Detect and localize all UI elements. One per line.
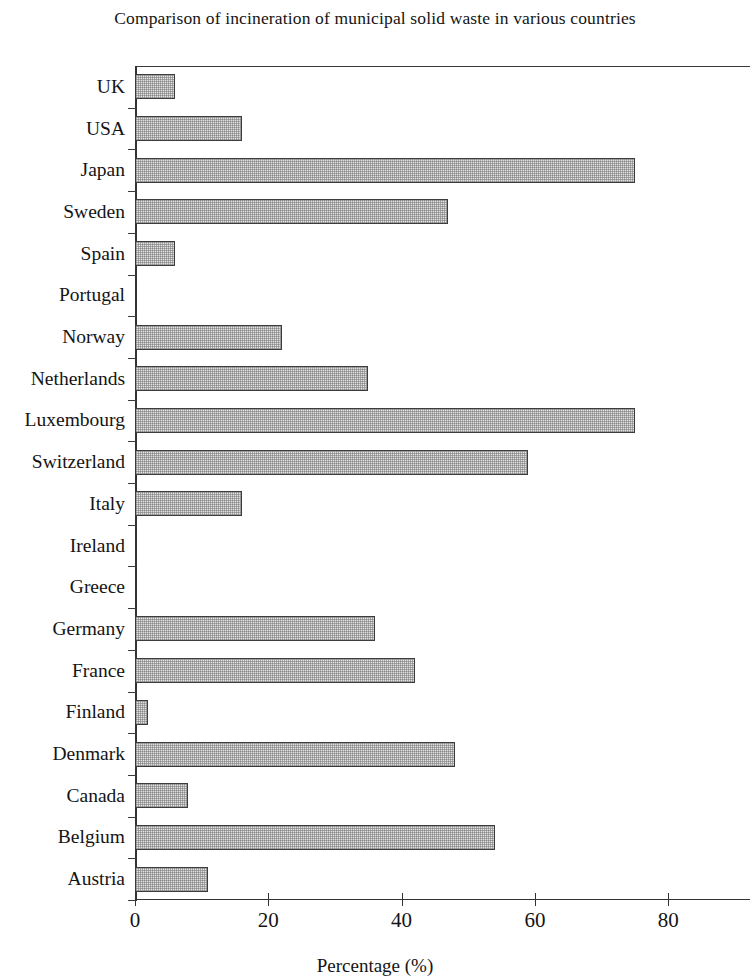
plot-top-border [135, 66, 750, 67]
y-axis-tick [128, 149, 137, 150]
category-label: Austria [0, 869, 125, 889]
bar [135, 241, 175, 266]
y-axis-tick [128, 817, 137, 818]
bar-chart: Comparison of incineration of municipal … [0, 0, 750, 977]
bar [135, 116, 242, 141]
x-axis-line [135, 899, 750, 900]
y-axis-tick [128, 733, 137, 734]
y-axis-tick [128, 650, 137, 651]
bar [135, 825, 495, 850]
y-axis-tick [128, 608, 137, 609]
x-axis-tick-label: 60 [505, 908, 565, 933]
y-axis-tick [128, 441, 137, 442]
y-axis-tick [128, 191, 137, 192]
category-label: Germany [0, 619, 125, 639]
category-label: Switzerland [0, 452, 125, 472]
category-label: Luxembourg [0, 410, 125, 430]
x-axis-tick [402, 893, 403, 906]
category-label: Greece [0, 577, 125, 597]
category-label: UK [0, 77, 125, 97]
category-label: Netherlands [0, 369, 125, 389]
bar [135, 408, 635, 433]
x-axis-tick [268, 893, 269, 906]
bar [135, 74, 175, 99]
bar [135, 658, 415, 683]
bar [135, 700, 148, 725]
x-axis-tick-label: 20 [238, 908, 298, 933]
x-axis-tick-label: 80 [638, 908, 698, 933]
y-axis-tick [128, 400, 137, 401]
x-axis-tick [668, 893, 669, 906]
category-label: Canada [0, 786, 125, 806]
bar [135, 199, 448, 224]
y-axis-tick [128, 692, 137, 693]
x-axis-tick-label: 40 [372, 908, 432, 933]
bar [135, 783, 188, 808]
bar [135, 450, 528, 475]
y-axis-tick [128, 775, 137, 776]
category-label: Italy [0, 494, 125, 514]
bar [135, 158, 635, 183]
x-axis-tick-label: 0 [105, 908, 165, 933]
category-label: Portugal [0, 285, 125, 305]
bar [135, 325, 282, 350]
y-axis-tick [128, 483, 137, 484]
y-axis-tick [128, 566, 137, 567]
category-label: Finland [0, 702, 125, 722]
category-label: France [0, 661, 125, 681]
bar [135, 491, 242, 516]
bar [135, 616, 375, 641]
x-axis-title: Percentage (%) [0, 955, 750, 977]
category-label: Spain [0, 244, 125, 264]
bar [135, 742, 455, 767]
chart-title: Comparison of incineration of municipal … [0, 8, 750, 29]
x-axis-tick [535, 893, 536, 906]
category-label: Norway [0, 327, 125, 347]
y-axis-tick [128, 275, 137, 276]
x-axis-tick [135, 893, 136, 906]
y-axis-tick [128, 316, 137, 317]
category-label: Belgium [0, 827, 125, 847]
category-label: Ireland [0, 536, 125, 556]
y-axis-tick [128, 525, 137, 526]
y-axis-tick [128, 358, 137, 359]
category-label: Sweden [0, 202, 125, 222]
bar [135, 867, 208, 892]
category-label: Denmark [0, 744, 125, 764]
y-axis-tick [128, 233, 137, 234]
y-axis-tick [128, 858, 137, 859]
y-axis-tick [128, 108, 137, 109]
category-label: Japan [0, 160, 125, 180]
category-label: USA [0, 119, 125, 139]
bar [135, 366, 368, 391]
